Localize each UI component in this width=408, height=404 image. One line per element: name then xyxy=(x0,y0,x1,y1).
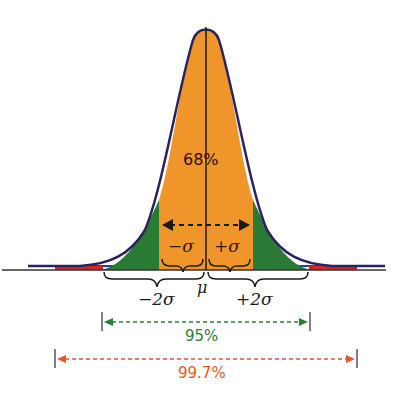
minus-2sigma-brace xyxy=(104,272,204,287)
label-plus-2sigma: +2σ xyxy=(236,289,273,309)
label-minus-2sigma: −2σ xyxy=(138,289,175,309)
997-arrow-left-head xyxy=(57,355,66,363)
997-arrow-right-head xyxy=(346,355,355,363)
label-99-7: 99.7% xyxy=(178,364,226,382)
label-minus-sigma: −σ xyxy=(168,236,194,256)
label-plus-sigma: +σ xyxy=(214,236,240,256)
95-arrow-left-head xyxy=(104,318,113,326)
label-68: 68% xyxy=(183,150,219,169)
95-arrow-right-head xyxy=(299,318,308,326)
label-mu: μ xyxy=(197,278,207,297)
plus-2sigma-brace xyxy=(208,272,308,287)
label-95: 95% xyxy=(185,327,218,345)
